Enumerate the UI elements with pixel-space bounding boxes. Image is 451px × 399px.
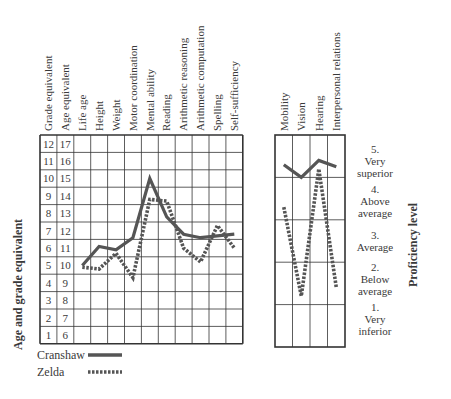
svg-text:5.: 5. — [371, 143, 380, 155]
grade-tick: 11 — [43, 155, 54, 167]
grade-tick: 8 — [46, 207, 52, 219]
grade-tick: 9 — [46, 190, 52, 202]
age-tick: 14 — [60, 190, 72, 202]
age-tick: 13 — [60, 207, 72, 219]
svg-text:Very: Very — [365, 155, 386, 167]
svg-text:average: average — [358, 285, 392, 297]
grade-tick: 6 — [46, 242, 52, 254]
column-header: Age equivalent — [59, 64, 71, 131]
column-header: Spelling — [211, 94, 223, 131]
age-tick: 9 — [63, 277, 69, 289]
chart: 12111098765432117161514131211109876Grade… — [0, 0, 451, 399]
age-tick: 16 — [60, 155, 72, 167]
column-header: Mobility — [278, 92, 290, 131]
legend: CranshawZelda — [37, 348, 122, 379]
svg-text:2.: 2. — [371, 261, 380, 273]
legend-label: Zelda — [37, 365, 65, 379]
grade-tick: 5 — [46, 259, 52, 271]
column-header: Interpersonal relations — [330, 32, 342, 131]
grade-tick: 7 — [46, 225, 52, 237]
proficiency-level: 1.Veryinferior — [359, 301, 392, 337]
column-header: Height — [93, 101, 105, 131]
left-grid: 12111098765432117161514131211109876Grade… — [11, 25, 243, 350]
column-header: Mental ability — [144, 68, 156, 131]
proficiency-level: 2.Belowaverage — [358, 261, 392, 297]
svg-text:1.: 1. — [371, 301, 380, 313]
column-header: Grade equivalent — [42, 56, 54, 131]
column-header: Hearing — [313, 95, 325, 131]
age-tick: 7 — [63, 312, 69, 324]
svg-text:Below: Below — [361, 273, 390, 285]
proficiency-level: 4.Aboveaverage — [358, 183, 392, 219]
svg-text:inferior: inferior — [359, 325, 392, 337]
grade-tick: 10 — [43, 172, 55, 184]
svg-text:Very: Very — [365, 313, 386, 325]
grade-tick: 2 — [46, 312, 52, 324]
proficiency-axis-label: Proficiency level — [406, 202, 420, 287]
grade-tick: 3 — [46, 294, 52, 306]
grade-tick: 1 — [46, 329, 52, 341]
proficiency-level: 5.Verysuperior — [357, 143, 393, 179]
column-header: Vision — [295, 102, 307, 131]
svg-text:Above: Above — [360, 195, 389, 207]
age-tick: 12 — [60, 225, 71, 237]
svg-text:4.: 4. — [371, 183, 380, 195]
age-tick: 17 — [60, 138, 72, 150]
age-tick: 8 — [63, 294, 69, 306]
legend-label: Cranshaw — [37, 348, 85, 362]
age-tick: 15 — [60, 172, 72, 184]
svg-text:3.: 3. — [371, 229, 380, 241]
y-axis-label: Age and grade equivalent — [11, 219, 25, 350]
svg-text:superior: superior — [357, 167, 393, 179]
right-grid: MobilityVisionHearingInterpersonal relat… — [275, 32, 420, 347]
column-header: Arithmetic reasoning — [177, 37, 189, 131]
age-tick: 6 — [63, 329, 69, 341]
age-tick: 10 — [60, 259, 72, 271]
svg-text:average: average — [358, 207, 392, 219]
grade-tick: 4 — [46, 277, 52, 289]
column-header: Reading — [160, 94, 172, 131]
column-header: Arithmetic computation — [194, 25, 206, 131]
svg-text:Average: Average — [357, 241, 394, 253]
column-header: Life age — [76, 95, 88, 131]
age-tick: 11 — [60, 242, 71, 254]
grade-tick: 12 — [43, 138, 54, 150]
column-header: Weight — [110, 100, 122, 132]
proficiency-level: 3.Average — [357, 229, 394, 253]
column-header: Self-sufficiency — [228, 60, 240, 131]
column-header: Motor coordination — [127, 45, 139, 131]
